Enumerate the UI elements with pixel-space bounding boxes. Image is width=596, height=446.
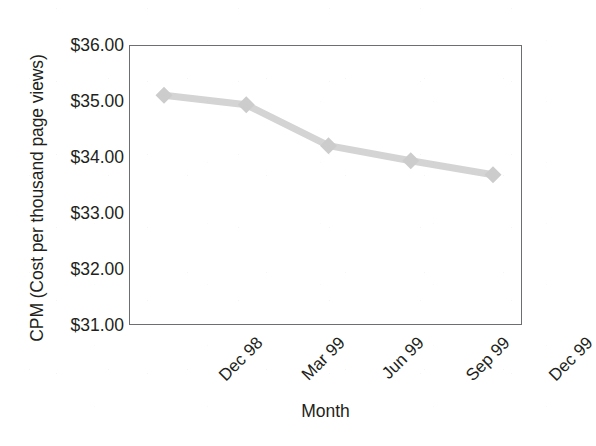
- x-axis-title: Month: [129, 400, 522, 422]
- plot-area: [129, 45, 522, 325]
- y-axis-tick-labels: $36.00 $35.00 $34.00 $33.00 $32.00 $31.0…: [52, 0, 124, 446]
- x-tick-label: Jun 99: [379, 334, 428, 383]
- y-axis-title: CPM (Cost per thousand page views): [24, 28, 50, 368]
- x-tick-label: Mar 99: [299, 334, 349, 384]
- series-line-cpm: [164, 95, 493, 175]
- y-tick-label: $36.00: [52, 36, 124, 54]
- data-point-marker: [156, 87, 173, 104]
- y-tick-label: $35.00: [52, 92, 124, 110]
- y-tick-label: $31.00: [52, 316, 124, 334]
- y-tick-label: $32.00: [52, 260, 124, 278]
- y-tick-label: $34.00: [52, 148, 124, 166]
- y-tick-label: $33.00: [52, 204, 124, 222]
- x-tick-label: Dec 98: [216, 334, 267, 385]
- x-tick-label: Sep 99: [463, 334, 514, 385]
- series-cpm: [156, 87, 502, 184]
- data-series-svg: [130, 46, 523, 326]
- x-tick-label: Dec 99: [546, 334, 596, 385]
- data-point-marker: [485, 166, 502, 183]
- data-point-marker: [402, 152, 419, 169]
